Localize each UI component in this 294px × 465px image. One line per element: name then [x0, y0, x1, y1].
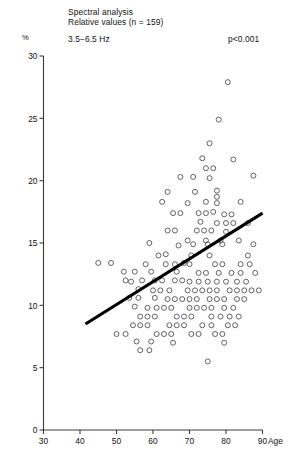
data-point — [114, 332, 119, 337]
data-point — [123, 278, 128, 283]
data-point — [196, 270, 201, 275]
data-point — [200, 156, 205, 161]
data-point — [169, 332, 174, 337]
data-point — [220, 332, 225, 337]
data-point — [191, 174, 196, 179]
x-tick-label: 60 — [148, 436, 158, 446]
data-point — [198, 219, 203, 224]
data-point — [231, 221, 236, 226]
data-point — [207, 288, 212, 293]
data-point — [145, 305, 150, 310]
data-point — [167, 323, 172, 328]
data-point — [187, 305, 192, 310]
data-point — [209, 228, 214, 233]
data-point — [191, 242, 196, 247]
data-point — [154, 332, 159, 337]
data-point — [207, 253, 212, 258]
x-tick-label: 90 — [258, 436, 268, 446]
data-point — [251, 173, 256, 178]
data-point — [154, 305, 159, 310]
data-point — [209, 323, 214, 328]
data-point — [143, 262, 148, 267]
data-point — [134, 339, 139, 344]
data-point — [253, 270, 258, 275]
x-tick-label: 30 — [39, 436, 49, 446]
y-tick-label: 20 — [28, 176, 38, 186]
data-point — [222, 297, 227, 302]
data-point — [227, 288, 232, 293]
x-tick-label: 40 — [75, 436, 85, 446]
data-point — [171, 340, 176, 345]
data-point — [194, 297, 199, 302]
data-point — [205, 359, 210, 364]
data-point — [172, 297, 177, 302]
data-point — [213, 332, 218, 337]
data-point — [222, 212, 227, 217]
data-point — [187, 262, 192, 267]
data-point — [216, 117, 221, 122]
data-point — [165, 228, 170, 233]
data-point — [172, 278, 177, 283]
data-point — [151, 288, 156, 293]
data-point — [138, 314, 143, 319]
x-axis-ticks: 30405060708090 — [39, 430, 268, 446]
data-point — [174, 314, 179, 319]
data-point — [161, 305, 166, 310]
data-point — [180, 278, 185, 283]
data-point — [180, 297, 185, 302]
y-tick-label: 25 — [28, 114, 38, 124]
y-tick-label: 30 — [28, 51, 38, 61]
data-point — [213, 262, 218, 267]
data-point — [203, 211, 208, 216]
data-point — [218, 314, 223, 319]
data-point — [192, 288, 197, 293]
data-point — [165, 189, 170, 194]
data-point — [163, 252, 168, 257]
x-axis-title: Age — [268, 436, 283, 446]
data-point — [236, 314, 241, 319]
data-point — [207, 297, 212, 302]
y-tick-label: 10 — [28, 301, 38, 311]
scatter-plot: 051015202530 30405060708090 Age — [0, 0, 294, 465]
data-point — [171, 211, 176, 216]
data-point — [231, 305, 236, 310]
data-point — [123, 332, 128, 337]
data-point — [147, 348, 152, 353]
data-point — [211, 209, 216, 214]
data-point — [214, 201, 219, 206]
data-point — [224, 221, 229, 226]
data-point — [200, 323, 205, 328]
data-point — [220, 262, 225, 267]
data-point — [245, 253, 250, 258]
y-tick-label: 5 — [33, 363, 38, 373]
data-point — [152, 314, 157, 319]
data-point — [238, 270, 243, 275]
x-tick-label: 70 — [185, 436, 195, 446]
data-point — [234, 297, 239, 302]
data-point — [209, 305, 214, 310]
data-point — [236, 238, 241, 243]
data-point — [200, 288, 205, 293]
data-point — [196, 279, 201, 284]
data-point — [244, 279, 249, 284]
data-point — [222, 340, 227, 345]
data-point — [234, 279, 239, 284]
data-point — [147, 241, 152, 246]
data-point — [249, 288, 254, 293]
data-point — [174, 269, 179, 274]
data-point — [132, 269, 137, 274]
data-point — [202, 305, 207, 310]
data-point — [203, 270, 208, 275]
data-point — [214, 279, 219, 284]
data-point — [169, 305, 174, 310]
data-point — [203, 166, 208, 171]
x-tick-label: 80 — [221, 436, 231, 446]
data-point — [149, 269, 154, 274]
data-point — [233, 323, 238, 328]
data-point — [161, 332, 166, 337]
data-point — [174, 323, 179, 328]
data-point — [185, 238, 190, 243]
data-point — [172, 228, 177, 233]
data-point — [167, 288, 172, 293]
figure-container: Spectral analysis Relative values (n = 1… — [0, 0, 294, 465]
